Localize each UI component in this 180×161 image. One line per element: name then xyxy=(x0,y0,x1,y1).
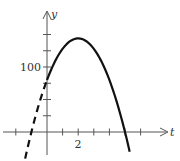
y-axis-label: y xyxy=(50,8,58,21)
axes xyxy=(3,11,168,155)
curve-dashed xyxy=(25,80,47,159)
x-axis-label: t xyxy=(170,126,175,139)
x-tick-label-2: 2 xyxy=(75,138,82,151)
chart: t y 2 100 xyxy=(0,0,180,161)
curve-solid xyxy=(47,38,130,151)
y-tick-label-100: 100 xyxy=(20,61,41,74)
